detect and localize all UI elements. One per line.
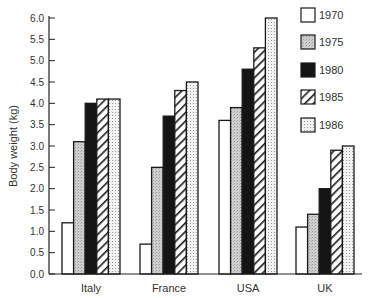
bar-usa-1985 bbox=[254, 48, 266, 274]
bar-usa-1980 bbox=[242, 69, 254, 274]
bar-uk-1975 bbox=[308, 214, 320, 274]
x-axis: ItalyFranceUSAUK bbox=[49, 274, 362, 294]
bar-france-1986 bbox=[186, 82, 198, 274]
y-tick-label: 2.0 bbox=[30, 183, 44, 194]
y-tick-label: 1.5 bbox=[30, 205, 44, 216]
bar-group-uk bbox=[296, 146, 354, 274]
bar-france-1970 bbox=[140, 244, 152, 274]
legend-label: 1986 bbox=[319, 119, 343, 131]
bar-france-1985 bbox=[175, 91, 187, 274]
bar-usa-1986 bbox=[265, 18, 277, 274]
bar-chart: 0.00.51.01.52.02.53.03.54.04.55.05.56.0 … bbox=[0, 0, 371, 298]
legend-item-1986: 1986 bbox=[301, 118, 343, 132]
y-axis: 0.00.51.01.52.02.53.03.54.04.55.05.56.0 bbox=[30, 13, 55, 280]
x-category-label: France bbox=[152, 282, 186, 294]
bar-france-1980 bbox=[163, 116, 175, 274]
bar-uk-1985 bbox=[331, 150, 343, 274]
y-tick-label: 3.0 bbox=[30, 141, 44, 152]
legend: 19701975198019851986 bbox=[301, 8, 343, 132]
y-tick-label: 2.5 bbox=[30, 162, 44, 173]
bar-italy-1985 bbox=[97, 99, 109, 274]
bar-italy-1986 bbox=[108, 99, 120, 274]
legend-label: 1975 bbox=[319, 36, 343, 48]
legend-item-1975: 1975 bbox=[301, 35, 343, 49]
legend-swatch bbox=[301, 118, 315, 132]
y-tick-label: 5.5 bbox=[30, 34, 44, 45]
y-tick-label: 4.0 bbox=[30, 98, 44, 109]
legend-swatch bbox=[301, 63, 315, 77]
bar-usa-1975 bbox=[231, 108, 243, 274]
y-tick-label: 6.0 bbox=[30, 13, 44, 24]
bar-italy-1975 bbox=[74, 142, 86, 274]
x-category-label: USA bbox=[237, 282, 260, 294]
y-tick-label: 4.5 bbox=[30, 77, 44, 88]
bar-france-1975 bbox=[152, 167, 164, 274]
bar-group-italy bbox=[62, 99, 120, 274]
legend-item-1970: 1970 bbox=[301, 8, 343, 22]
y-tick-label: 0.0 bbox=[30, 269, 44, 280]
legend-swatch bbox=[301, 8, 315, 22]
legend-label: 1980 bbox=[319, 64, 343, 76]
bar-italy-1980 bbox=[85, 103, 97, 274]
y-tick-label: 0.5 bbox=[30, 247, 44, 258]
legend-item-1980: 1980 bbox=[301, 63, 343, 77]
bar-italy-1970 bbox=[62, 223, 74, 274]
bar-groups bbox=[62, 18, 354, 274]
x-category-label: Italy bbox=[81, 282, 102, 294]
x-category-label: UK bbox=[317, 282, 333, 294]
y-tick-label: 1.0 bbox=[30, 226, 44, 237]
legend-swatch bbox=[301, 90, 315, 104]
legend-swatch bbox=[301, 35, 315, 49]
bar-group-france bbox=[140, 82, 198, 274]
y-tick-label: 3.5 bbox=[30, 119, 44, 130]
bar-uk-1986 bbox=[342, 146, 354, 274]
y-axis-title: Body weight (kg) bbox=[7, 105, 19, 187]
legend-label: 1970 bbox=[319, 9, 343, 21]
y-tick-label: 5.0 bbox=[30, 55, 44, 66]
bar-uk-1980 bbox=[319, 189, 331, 274]
legend-item-1985: 1985 bbox=[301, 90, 343, 104]
bar-usa-1970 bbox=[219, 120, 231, 274]
bar-group-usa bbox=[219, 18, 277, 274]
bar-uk-1970 bbox=[296, 227, 308, 274]
legend-label: 1985 bbox=[319, 91, 343, 103]
